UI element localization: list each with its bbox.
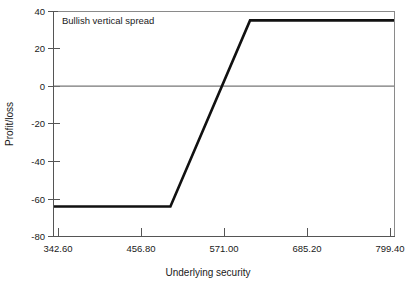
y-tick-label-neg60: -60: [31, 194, 45, 205]
x-tick-label-4: 685.20: [292, 243, 321, 254]
profit-loss-line-chart: 40 20 0 -20 -40 -60 -80 342.60 456.80 57…: [0, 0, 417, 291]
y-axis-title: Profit/loss: [4, 102, 15, 146]
x-axis-title: Underlying security: [165, 267, 250, 278]
y-tick-label-neg40: -40: [31, 156, 45, 167]
x-tick-label-5: 799.40: [375, 243, 404, 254]
y-tick-label-0: 0: [40, 81, 45, 92]
x-tick-label-2: 456.80: [126, 243, 155, 254]
y-tick-label-40: 40: [34, 6, 45, 17]
x-tick-label-3: 571.00: [209, 243, 238, 254]
y-tick-label-neg80: -80: [31, 231, 45, 242]
chart-figure: 40 20 0 -20 -40 -60 -80 342.60 456.80 57…: [0, 0, 417, 291]
x-tick-label-1: 342.60: [43, 243, 72, 254]
chart-title-annotation: Bullish vertical spread: [62, 15, 154, 26]
y-tick-label-neg20: -20: [31, 118, 45, 129]
y-tick-label-20: 20: [34, 43, 45, 54]
